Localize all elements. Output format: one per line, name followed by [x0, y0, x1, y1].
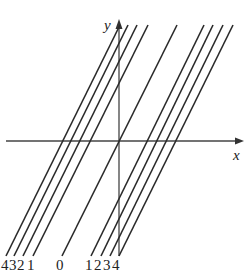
diagram-canvas: [0, 0, 250, 273]
label-neg2: 2: [17, 258, 25, 273]
label-neg4: 4: [1, 258, 9, 273]
label-pos2: 2: [94, 258, 102, 273]
label-pos3: 3: [103, 258, 111, 273]
label-zero: 0: [56, 258, 64, 273]
label-neg3: 3: [9, 258, 17, 273]
label-pos4: 4: [112, 258, 120, 273]
label-neg1: 1: [27, 258, 35, 273]
label-pos1: 1: [85, 258, 93, 273]
x-axis-arrow-icon: [235, 138, 244, 145]
x-axis-label: x: [233, 148, 240, 163]
y-axis-label: y: [104, 18, 111, 33]
